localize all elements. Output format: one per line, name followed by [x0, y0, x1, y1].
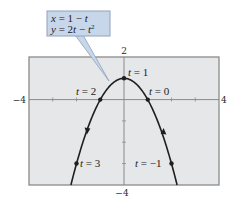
point-t2	[98, 97, 102, 101]
point-tm1	[169, 161, 173, 165]
x-min-label: −4	[13, 95, 27, 105]
parametric-plot: −4 4 2 −4 t = 1 t = 0 t = 2 t = 3 t = −1…	[0, 0, 238, 199]
point-t1	[122, 76, 126, 80]
label-t0: t = 0	[149, 85, 170, 97]
label-t1: t = 1	[128, 66, 148, 78]
y-max-label: 2	[121, 46, 127, 56]
point-t0	[146, 97, 150, 101]
x-max-label: 4	[221, 95, 227, 105]
label-tm1: t = −1	[135, 157, 161, 169]
label-t2: t = 2	[76, 85, 96, 97]
label-t3: t = 3	[80, 157, 101, 169]
y-min-label: −4	[115, 188, 129, 198]
equation-y: y = 2t − t2	[50, 23, 95, 35]
point-t3	[74, 161, 78, 165]
